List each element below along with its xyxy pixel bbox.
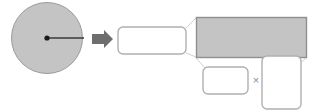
leader-line-top-left: [186, 18, 196, 28]
leader-line-bottom-left: [186, 53, 196, 57]
arrow-right-icon: [92, 30, 113, 48]
factor-box-left[interactable]: [203, 67, 248, 94]
multiply-operator: ×: [253, 74, 259, 86]
result-box[interactable]: [118, 27, 186, 54]
diagram-canvas: ×: [0, 0, 319, 112]
circle-shape-group: [12, 3, 85, 74]
leader-line-to-factor-left: [196, 58, 205, 68]
arrow-right-glyph: [92, 30, 113, 48]
area-expression-box[interactable]: [197, 18, 307, 58]
circle-center-dot: [44, 35, 49, 40]
factor-box-right[interactable]: [262, 56, 301, 109]
diagram-svg: ×: [0, 0, 319, 112]
